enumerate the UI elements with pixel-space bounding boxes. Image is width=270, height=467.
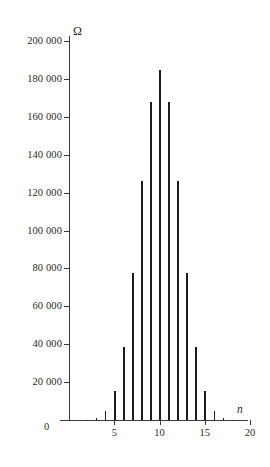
bar	[232, 420, 234, 421]
y-axis-tick	[64, 306, 70, 307]
bar	[141, 181, 143, 420]
bar	[114, 391, 116, 420]
bar	[195, 347, 197, 420]
bar	[214, 411, 216, 420]
bar	[87, 420, 89, 421]
bar	[223, 418, 225, 420]
y-axis-tick	[64, 41, 70, 42]
bar	[96, 418, 98, 420]
x-axis-tick	[114, 420, 115, 425]
x-axis-tick-label: 20	[239, 427, 261, 438]
bar	[132, 273, 134, 420]
y-axis-tick	[64, 117, 70, 118]
x-axis-tick-label: 5	[103, 427, 125, 438]
chart-figure: Ω n 0 20 00040 00060 00080 000100 000120…	[0, 0, 270, 467]
x-axis-title: n	[237, 403, 243, 415]
y-axis-tick-label: 20 000	[33, 376, 62, 387]
bar	[159, 70, 161, 420]
bar	[123, 347, 125, 420]
x-axis-tick-label: 15	[194, 427, 216, 438]
y-axis-tick-label: 60 000	[33, 300, 62, 311]
bar	[168, 102, 170, 420]
bar	[150, 102, 152, 420]
y-axis-title: Ω	[73, 25, 82, 37]
x-axis-tick	[250, 420, 251, 425]
y-axis-tick	[64, 382, 70, 383]
bar	[204, 391, 206, 420]
bar	[177, 181, 179, 420]
y-axis-tick-label: 100 000	[27, 225, 62, 236]
y-axis-tick-label: 160 000	[27, 111, 62, 122]
y-axis-tick	[64, 268, 70, 269]
y-axis-tick	[64, 155, 70, 156]
bar	[105, 411, 107, 420]
bar	[186, 273, 188, 420]
x-axis-tick	[205, 420, 206, 425]
y-axis-tick-label: 80 000	[33, 262, 62, 273]
y-axis-tick	[64, 193, 70, 194]
x-axis-tick-label: 10	[149, 427, 171, 438]
y-axis-tick	[64, 344, 70, 345]
x-axis-tick	[160, 420, 161, 425]
plot-area: Ω n 0 20 00040 00060 00080 000100 000120…	[0, 0, 270, 467]
y-axis-line	[69, 36, 70, 421]
y-axis-tick-label: 180 000	[27, 73, 62, 84]
y-axis-tick-label: 40 000	[33, 338, 62, 349]
origin-tick-label: 0	[44, 421, 49, 432]
y-axis-tick-label: 120 000	[27, 187, 62, 198]
y-axis-tick	[64, 231, 70, 232]
y-axis-tick-label: 140 000	[27, 149, 62, 160]
y-axis-tick-label: 200 000	[27, 35, 62, 46]
y-axis-tick	[64, 79, 70, 80]
